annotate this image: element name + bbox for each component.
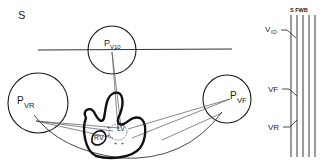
connection-lines — [36, 52, 230, 140]
diagram-canvas: S P V10 P VR P VF — [0, 0, 326, 168]
lead-bus: S FWB V IO VF VR — [265, 7, 315, 157]
node-p-vf-main: P — [230, 90, 237, 101]
node-p-vr-sub: VR — [24, 101, 35, 110]
node-p-vr-main: P — [17, 95, 24, 106]
svg-text:+: + — [107, 124, 110, 130]
lead-vf: VF — [268, 85, 297, 96]
lead-vr-label: VR — [268, 123, 279, 132]
bus-header: S FWB — [290, 7, 308, 13]
lead-vr: VR — [268, 120, 297, 132]
lv-label: LV — [117, 125, 125, 132]
rv-label: RV — [94, 134, 104, 141]
panel-label: S — [18, 9, 25, 21]
lead-v10-label: IO — [271, 29, 278, 35]
svg-text:+: + — [107, 132, 110, 138]
ground-arc — [34, 112, 222, 158]
node-p-vf: P VF — [203, 75, 251, 123]
svg-text:+: + — [114, 140, 117, 146]
svg-text:+: + — [121, 140, 124, 146]
lead-vf-label: VF — [268, 85, 278, 94]
node-p-vf-sub: VF — [237, 96, 247, 105]
node-p-v10-sub: V10 — [110, 44, 121, 50]
heart-outline — [84, 93, 145, 158]
horizontal-reference-line — [38, 49, 232, 50]
